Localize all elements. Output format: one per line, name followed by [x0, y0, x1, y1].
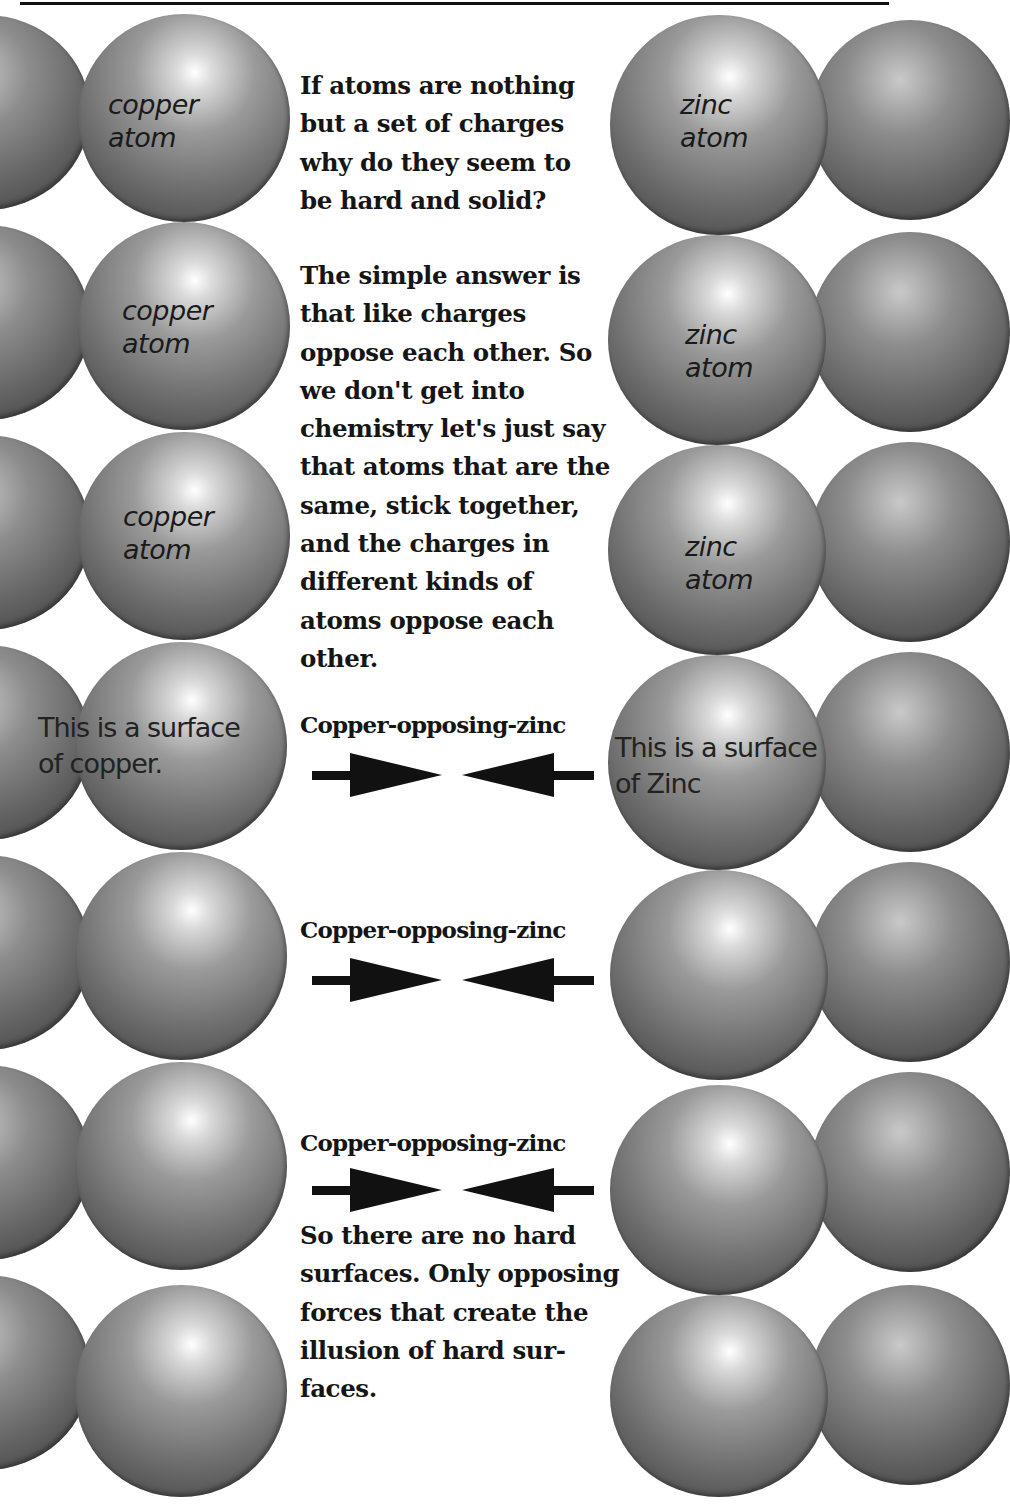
copper-sphere — [75, 852, 287, 1060]
copper-atom-label-line1: copper — [122, 294, 212, 327]
copper-sphere — [75, 1285, 287, 1497]
zinc-atom-label-line2: atom — [680, 121, 748, 154]
zinc-sphere — [610, 870, 828, 1080]
copper-atom-label-line2: atom — [123, 533, 213, 566]
copper-atom-label: copper atom — [122, 294, 212, 360]
question-text: If atoms are nothing but a set of charge… — [300, 67, 590, 220]
zinc-sphere — [610, 1295, 828, 1497]
copper-surface-label-line2: of copper. — [38, 746, 240, 782]
zinc-sphere-back — [810, 652, 1010, 852]
zinc-atom-label-line2: atom — [685, 563, 753, 596]
conclusion-text: So there are no hard surfaces. Only oppo… — [300, 1217, 635, 1408]
zinc-surface-label-line2: of Zinc — [615, 766, 817, 802]
zinc-atom-label-line1: zinc — [680, 88, 748, 121]
opposing-arrows-icon — [312, 1165, 602, 1215]
opposing-arrows-icon — [312, 750, 602, 800]
copper-atom-label: copper atom — [123, 500, 213, 566]
zinc-atom-label-line1: zinc — [685, 530, 753, 563]
zinc-atom-label: zinc atom — [680, 88, 748, 154]
force-label: Copper-opposing-zinc — [300, 915, 566, 945]
zinc-sphere-back — [810, 232, 1010, 432]
opposing-arrows-icon — [312, 955, 602, 1005]
zinc-sphere — [610, 1085, 828, 1295]
zinc-sphere-back — [810, 1072, 1010, 1272]
zinc-atom-label: zinc atom — [685, 530, 753, 596]
zinc-atom-label-line1: zinc — [685, 318, 753, 351]
copper-atom-label-line2: atom — [122, 327, 212, 360]
copper-sphere — [75, 1062, 287, 1270]
zinc-atom-label-line2: atom — [685, 351, 753, 384]
copper-sphere-back — [0, 15, 90, 210]
copper-surface-label: This is a surface of copper. — [38, 710, 240, 782]
copper-atom-label-line1: copper — [123, 500, 213, 533]
zinc-atom-label: zinc atom — [685, 318, 753, 384]
force-label: Copper-opposing-zinc — [300, 710, 566, 740]
zinc-sphere-back — [810, 442, 1010, 642]
copper-sphere-back — [0, 225, 90, 420]
copper-atom-label-line1: copper — [108, 88, 198, 121]
zinc-surface-label: This is a surface of Zinc — [615, 730, 817, 802]
copper-surface-label-line1: This is a surface — [38, 710, 240, 746]
zinc-sphere-back — [810, 20, 1010, 220]
zinc-surface-label-line1: This is a surface — [615, 730, 817, 766]
zinc-sphere-back — [810, 862, 1010, 1062]
zinc-sphere-back — [810, 1285, 1010, 1485]
top-rule — [20, 2, 889, 5]
copper-atom-label-line2: atom — [108, 121, 198, 154]
force-label: Copper-opposing-zinc — [300, 1128, 566, 1158]
copper-atom-label: copper atom — [108, 88, 198, 154]
answer-text: The simple answer is that like charges o… — [300, 257, 618, 678]
copper-sphere-back — [0, 435, 90, 630]
